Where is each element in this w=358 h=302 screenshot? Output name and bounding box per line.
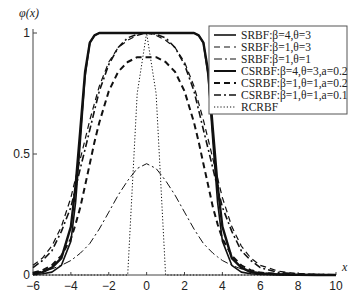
x-tick-label: 0 bbox=[143, 279, 150, 293]
y-tick-label: 0 bbox=[23, 268, 30, 282]
series-line bbox=[33, 164, 336, 275]
x-tick-label: −4 bbox=[64, 279, 78, 293]
y-axis-label: φ(x) bbox=[19, 6, 39, 20]
y-tick-label: 1 bbox=[23, 26, 30, 40]
legend-label: RCRBF bbox=[241, 101, 278, 113]
y-tick-label: 0.5 bbox=[13, 147, 30, 161]
x-tick-label: 2 bbox=[181, 279, 188, 293]
x-tick-label: 10 bbox=[329, 279, 343, 293]
x-tick-label: −2 bbox=[102, 279, 116, 293]
x-tick-label: 4 bbox=[219, 279, 226, 293]
chart-canvas: −6−4−2024681000.51φ(x)x SRBF:β=4,θ=3SRBF… bbox=[0, 0, 358, 302]
legend: SRBF:β=4,θ=3SRBF:β=1,θ=3SRBF:β=1,θ=1CSRB… bbox=[209, 26, 348, 114]
x-tick-label: 6 bbox=[257, 279, 264, 293]
x-axis-label: x bbox=[341, 260, 348, 274]
x-tick-label: 8 bbox=[295, 279, 302, 293]
